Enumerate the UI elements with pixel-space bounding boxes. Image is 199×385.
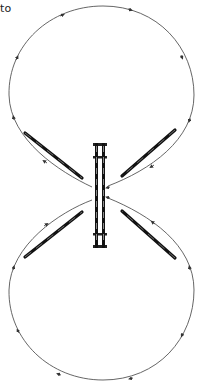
field-diagram (0, 0, 199, 385)
vertical-bar (93, 143, 107, 248)
upper-right-rod (122, 130, 175, 176)
lower-loop (9, 197, 194, 380)
lower-left-rod (25, 212, 82, 257)
lower-right-rod (122, 211, 175, 258)
upper-loop (9, 6, 194, 188)
upper-left-rod (25, 133, 82, 178)
